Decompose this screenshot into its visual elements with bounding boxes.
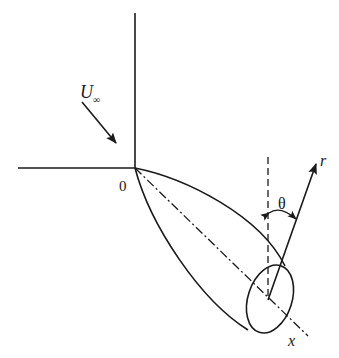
theta-label: θ (278, 195, 286, 212)
body-of-revolution-diagram: U ∞ 0 θ r x (0, 0, 339, 358)
freestream-arrow (82, 102, 116, 143)
body-upper-contour (135, 168, 285, 266)
origin-label: 0 (119, 178, 127, 194)
radial-label: r (320, 152, 327, 169)
body-lower-contour (135, 168, 248, 330)
freestream-label: U (80, 82, 94, 102)
body-axis-x (135, 168, 308, 336)
axis-x-label: x (287, 332, 295, 349)
freestream-subscript: ∞ (93, 94, 100, 105)
